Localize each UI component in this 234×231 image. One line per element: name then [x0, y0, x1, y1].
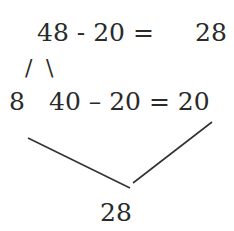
left-connector-line — [28, 138, 130, 188]
connector-lines — [0, 0, 234, 231]
final-result: 28 — [100, 200, 132, 225]
right-connector-line — [133, 122, 212, 183]
